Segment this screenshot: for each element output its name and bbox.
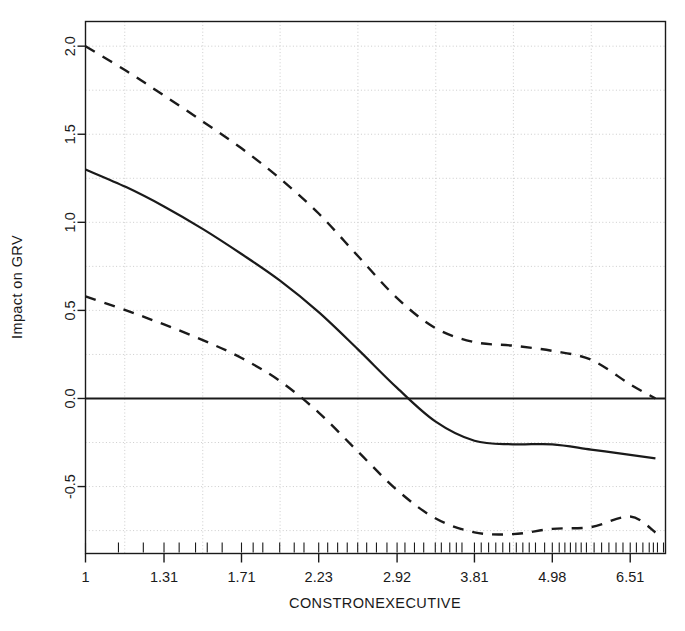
y-axis: -0.50.00.51.01.52.0	[62, 36, 85, 499]
y-axis-title: Impact on GRV	[9, 235, 25, 339]
y-axis-tick-label: 1.5	[62, 124, 78, 144]
x-axis-tick-label: 1.31	[150, 569, 178, 585]
y-axis-tick-label: 0.5	[62, 300, 78, 320]
confidence-bound-curve	[86, 296, 656, 534]
x-axis-tick-label: 2.92	[383, 569, 411, 585]
y-axis-tick-label: 0.0	[62, 388, 78, 408]
confidence-band-plot: -0.50.00.51.01.52.0 11.311.712.232.923.8…	[0, 0, 685, 631]
x-axis-tick-label: 2.23	[305, 569, 333, 585]
x-axis-title: CONSTRONEXECUTIVE	[289, 595, 461, 611]
rug-marks	[86, 543, 664, 553]
estimate-curve	[86, 169, 656, 458]
y-axis-tick-label: 1.0	[62, 212, 78, 232]
data-series	[86, 46, 656, 534]
x-axis: 11.311.712.232.923.814.986.51	[81, 554, 644, 585]
x-axis-tick-label: 1	[81, 569, 89, 585]
y-axis-tick-label: 2.0	[62, 36, 78, 56]
x-axis-tick-label: 3.81	[460, 569, 488, 585]
x-axis-tick-label: 1.71	[227, 569, 255, 585]
x-axis-tick-label: 6.51	[616, 569, 644, 585]
chart-figure: -0.50.00.51.01.52.0 11.311.712.232.923.8…	[0, 0, 685, 631]
y-axis-tick-label: -0.5	[62, 474, 78, 499]
x-axis-tick-label: 4.98	[538, 569, 566, 585]
